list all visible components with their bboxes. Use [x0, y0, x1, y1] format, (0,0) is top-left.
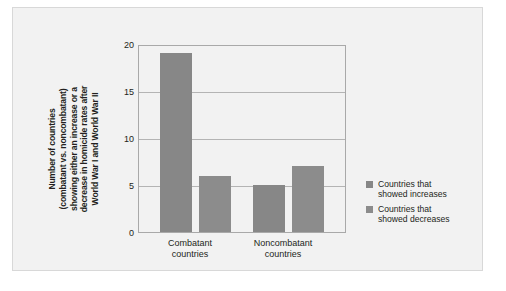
- x-category-noncombatant: Noncombatant countries: [231, 238, 335, 260]
- y-tick-15: 15: [112, 87, 134, 97]
- plot-area: [138, 45, 346, 233]
- y-axis-title: Number of countries (combatant vs. nonco…: [43, 44, 105, 254]
- y-axis-tick-labels: 0 5 10 15 20: [108, 45, 134, 233]
- legend-entry-decreases: Countries that showed decreases: [366, 204, 478, 225]
- legend-label-increases-line-2: showed increases: [378, 189, 447, 199]
- legend-label-decreases: Countries that showed decreases: [378, 204, 450, 225]
- x-category-combatant: Combatant countries: [138, 238, 242, 260]
- legend-swatch-decreases-icon: [366, 206, 373, 213]
- legend-label-increases-line-1: Countries that: [378, 179, 432, 189]
- bar-combatant-decreases: [199, 176, 231, 232]
- bar-noncombatant-decreases: [292, 166, 324, 232]
- y-axis-title-line-3: showing either an increase or a: [69, 87, 80, 211]
- x-category-noncombatant-line-1: Noncombatant: [231, 238, 335, 249]
- y-axis-title-line-5: World War I and World War II: [90, 93, 101, 206]
- x-category-combatant-line-2: countries: [138, 249, 242, 260]
- x-category-combatant-line-1: Combatant: [138, 238, 242, 249]
- y-axis-title-line-4: decrease in homicide rates after: [79, 86, 90, 213]
- y-tick-20: 20: [112, 40, 134, 50]
- y-axis-title-line-2: (combatant vs. noncombatant): [58, 89, 69, 210]
- legend-label-decreases-line-1: Countries that: [378, 204, 432, 214]
- figure-card: Number of countries (combatant vs. nonco…: [12, 7, 483, 271]
- y-axis-title-line-1: Number of countries: [47, 108, 58, 189]
- legend-swatch-increases-icon: [366, 181, 373, 188]
- bar-noncombatant-increases: [253, 185, 285, 232]
- y-tick-0: 0: [112, 228, 134, 238]
- legend-entry-increases: Countries that showed increases: [366, 179, 478, 200]
- y-tick-10: 10: [112, 134, 134, 144]
- legend-label-increases: Countries that showed increases: [378, 179, 447, 200]
- y-tick-5: 5: [112, 181, 134, 191]
- legend-label-decreases-line-2: showed decreases: [378, 214, 450, 224]
- chart-legend: Countries that showed increases Countrie…: [366, 179, 478, 229]
- bar-combatant-increases: [160, 53, 192, 232]
- x-category-noncombatant-line-2: countries: [231, 249, 335, 260]
